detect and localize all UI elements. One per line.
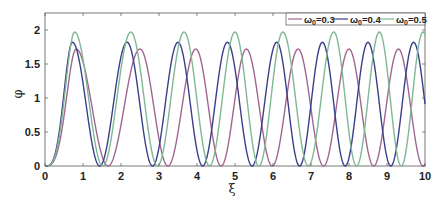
x-tick-label: 6 [270,170,276,182]
legend: ω0=0.3ω0=0.4ω0=0.5 [286,13,427,26]
x-tick-label: 2 [118,170,124,182]
y-tick-label: 2 [34,24,40,36]
legend-label: ω0=0.3 [304,14,335,26]
y-tick-label: 0 [34,160,40,172]
x-tick-label: 8 [346,170,352,182]
x-tick-label: 9 [384,170,390,182]
legend-label: ω0=0.4 [350,14,381,26]
x-tick-label: 4 [194,170,201,182]
x-tick-label: 7 [308,170,314,182]
x-tick-label: 1 [80,170,86,182]
x-tick-label: 0 [42,170,48,182]
y-tick-label: 1.5 [25,58,40,70]
x-tick-label: 3 [156,170,162,182]
plot-frame [45,13,425,166]
y-tick-label: 1 [34,92,40,104]
y-tick-label: 0.5 [25,126,40,138]
chart: 012345678910 00.511.52 ξ φ ω0=0.3ω0=0.4ω… [0,0,443,206]
x-axis-label: ξ [228,181,235,196]
legend-label: ω0=0.5 [396,14,427,26]
y-axis-label: φ [10,89,25,98]
plot-area: 012345678910 00.511.52 [25,13,431,182]
x-tick-label: 10 [419,170,431,182]
